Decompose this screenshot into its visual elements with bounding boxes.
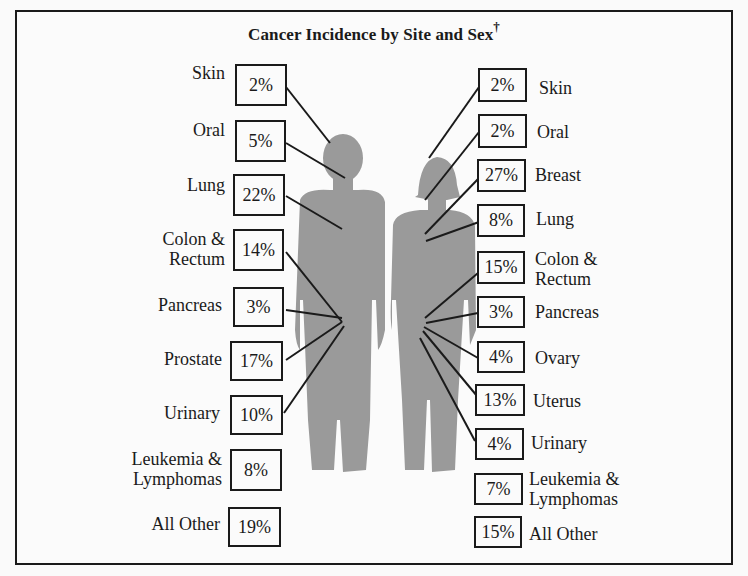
female-label-oral: Oral <box>537 122 687 142</box>
female-pct-ovary: 4% <box>477 341 525 373</box>
female-pct-pancreas: 3% <box>477 296 525 328</box>
male-pct-pancreas: 3% <box>233 287 284 327</box>
male-pct-all-other: 19% <box>228 507 281 547</box>
female-label-lung: Lung <box>536 209 686 229</box>
female-pct-all-other: 15% <box>474 516 522 548</box>
male-label-oral: Oral <box>110 120 225 140</box>
female-label-uterus: Uterus <box>533 391 683 411</box>
male-pct-colon-rectum: 14% <box>233 229 284 271</box>
male-label-pancreas: Pancreas <box>100 295 222 315</box>
female-pct-oral: 2% <box>478 114 527 148</box>
female-label-all-other: All Other <box>529 524 679 544</box>
male-label-lung: Lung <box>110 175 225 195</box>
male-pct-urinary: 10% <box>230 395 283 435</box>
female-silhouette-icon <box>391 157 476 472</box>
male-label-leukemia-line1: Leukemia & <box>100 449 222 469</box>
female-label-colon-line1: Colon & <box>535 249 685 269</box>
male-pct-lung: 22% <box>233 174 285 216</box>
female-pct-lung: 8% <box>477 204 525 237</box>
male-label-all-other: All Other <box>100 514 220 534</box>
male-label-skin: Skin <box>110 63 225 83</box>
female-label-colon-rectum: Colon & Rectum <box>535 249 685 289</box>
female-label-leukemia-line2: Lymphomas <box>529 489 689 509</box>
female-pct-colon-rectum: 15% <box>477 251 525 284</box>
female-label-leukemia-line1: Leukemia & <box>529 469 689 489</box>
male-silhouette-icon <box>295 134 385 472</box>
female-pct-uterus: 13% <box>475 384 525 416</box>
female-label-skin: Skin <box>539 78 689 98</box>
male-label-colon-rectum: Colon & Rectum <box>100 229 225 269</box>
female-label-pancreas: Pancreas <box>535 302 685 322</box>
male-label-leukemia-line2: Lymphomas <box>100 469 222 489</box>
female-pct-skin: 2% <box>478 68 527 102</box>
male-label-urinary: Urinary <box>100 403 220 423</box>
female-pct-breast: 27% <box>477 159 526 192</box>
female-label-breast: Breast <box>535 165 685 185</box>
male-label-prostate: Prostate <box>100 349 222 369</box>
male-label-colon-line1: Colon & <box>100 229 225 249</box>
female-pct-leukemia-lymphomas: 7% <box>474 473 523 505</box>
male-pct-leukemia-lymphomas: 8% <box>230 449 282 491</box>
male-pct-skin: 2% <box>235 64 287 106</box>
male-label-colon-line2: Rectum <box>100 249 225 269</box>
female-pct-urinary: 4% <box>475 428 524 460</box>
male-label-leukemia-lymphomas: Leukemia & Lymphomas <box>100 449 222 489</box>
male-pct-oral: 5% <box>235 120 286 162</box>
female-label-ovary: Ovary <box>535 348 685 368</box>
female-label-leukemia-lymphomas: Leukemia & Lymphomas <box>529 469 689 509</box>
female-label-colon-line2: Rectum <box>535 269 685 289</box>
male-pct-prostate: 17% <box>230 341 283 381</box>
female-label-urinary: Urinary <box>531 433 681 453</box>
